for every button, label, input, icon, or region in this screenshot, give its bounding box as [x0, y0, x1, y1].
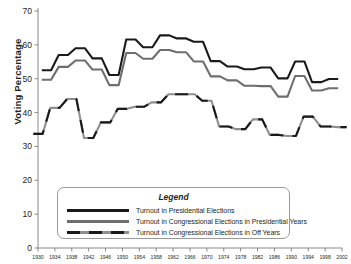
x-tick-label: 1938: [66, 254, 77, 260]
legend-swatch-congressional-off-icon: [67, 231, 129, 234]
x-tick-label: 1950: [117, 254, 128, 260]
legend-item-congressional-presidential-years: Turnout in Congressional Elections in Pr…: [58, 216, 289, 227]
x-tick-label: 1978: [235, 254, 246, 260]
x-tick-label: 1954: [134, 254, 145, 260]
x-tick-label: 1982: [252, 254, 263, 260]
y-tick-label: 40: [23, 108, 33, 118]
y-tick-label: 60: [23, 40, 33, 50]
series-line-congressional-presidential: [42, 50, 338, 97]
y-tick-label: 10: [23, 209, 33, 219]
x-tick-label: 1966: [184, 254, 195, 260]
y-tick-label: 50: [23, 74, 33, 84]
x-tick-label: 1970: [201, 254, 212, 260]
legend-label-presidential: Turnout in Presidential Elections: [136, 207, 234, 214]
x-tick-label: 1998: [319, 254, 330, 260]
series-line-congressional-off-base: [33, 94, 346, 138]
legend-title: Legend: [58, 192, 289, 202]
voter-turnout-chart: 0102030405060701930193419381942194619501…: [0, 0, 351, 264]
x-tick-label: 1994: [303, 254, 314, 260]
y-tick-label: 30: [23, 141, 33, 151]
x-tick-label: 1974: [218, 254, 229, 260]
x-tick-label: 1946: [100, 254, 111, 260]
legend-label-congressional-off: Turnout in Congressional Elections in Of…: [136, 229, 280, 236]
x-tick-label: 1930: [32, 254, 43, 260]
x-tick-label: 1942: [83, 254, 94, 260]
y-tick-label: 0: [27, 243, 32, 253]
x-tick-label: 1958: [151, 254, 162, 260]
legend-swatch-congressional-presidential-icon: [67, 220, 129, 223]
legend-swatch-presidential-icon: [67, 209, 129, 212]
x-tick-label: 1934: [49, 254, 60, 260]
legend-item-congressional-off-years: Turnout in Congressional Elections in Of…: [58, 227, 289, 238]
series-line-presidential: [42, 35, 338, 82]
y-tick-label: 70: [23, 6, 33, 16]
legend-items: Turnout in Presidential Elections Turnou…: [58, 205, 289, 238]
x-tick-label: 2002: [336, 254, 347, 260]
x-tick-label: 1986: [269, 254, 280, 260]
y-tick-label: 20: [23, 175, 33, 185]
legend: Legend Turnout in Presidential Elections…: [57, 187, 290, 239]
legend-label-congressional-presidential: Turnout in Congressional Elections in Pr…: [136, 218, 307, 225]
legend-item-presidential: Turnout in Presidential Elections: [58, 205, 289, 216]
y-axis-title: Voting Percentage: [12, 27, 23, 137]
x-tick-label: 1962: [167, 254, 178, 260]
x-tick-label: 1990: [286, 254, 297, 260]
